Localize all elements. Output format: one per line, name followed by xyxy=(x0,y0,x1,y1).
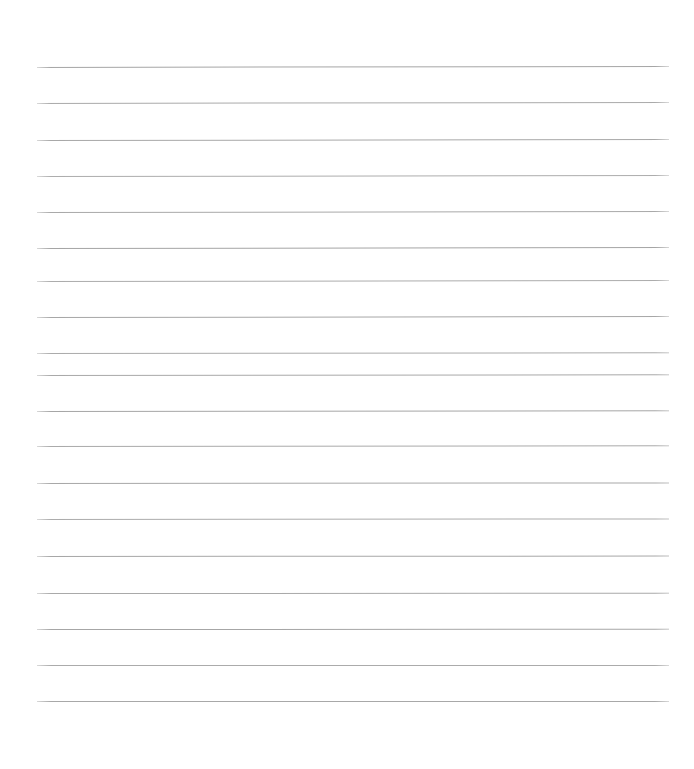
ruled-line xyxy=(37,247,669,249)
ruled-line xyxy=(37,66,669,68)
ruled-line xyxy=(37,211,669,213)
ruled-line xyxy=(37,445,669,447)
ruled-line xyxy=(37,556,669,557)
ruled-lines-group xyxy=(0,0,694,769)
ruled-line xyxy=(37,352,669,354)
ruled-line xyxy=(37,629,669,630)
ruled-line xyxy=(37,482,669,484)
ruled-line xyxy=(37,374,669,376)
notepad-page xyxy=(0,0,694,769)
ruled-line xyxy=(37,316,669,318)
ruled-line xyxy=(37,665,669,666)
ruled-line xyxy=(37,593,669,594)
ruled-line xyxy=(37,102,669,104)
ruled-line xyxy=(37,410,669,412)
ruled-line xyxy=(37,518,669,520)
ruled-line xyxy=(37,139,669,141)
ruled-line xyxy=(37,175,669,177)
ruled-line xyxy=(37,701,669,702)
ruled-line xyxy=(37,280,669,282)
